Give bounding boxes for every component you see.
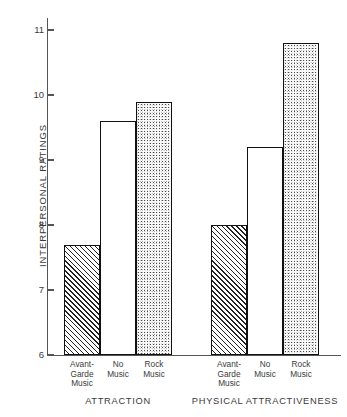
bar-chart-figure: INTERPERSONAL RATINGS 67891011 Avant- Ga… <box>0 0 347 417</box>
y-tick-label: 9 <box>24 154 44 165</box>
bar <box>211 225 247 355</box>
y-tick-mark <box>48 224 54 225</box>
bar <box>100 121 136 355</box>
y-tick-mark <box>48 289 54 290</box>
y-tick-label: 7 <box>24 284 44 295</box>
category-tick-label: Rock Music <box>132 360 176 379</box>
y-tick-mark <box>48 354 54 355</box>
bar <box>64 245 100 356</box>
bar <box>283 43 319 355</box>
y-tick-mark <box>48 159 54 160</box>
y-tick-label: 6 <box>24 349 44 360</box>
y-tick-mark <box>48 29 54 30</box>
y-tick-label: 11 <box>24 24 44 35</box>
y-tick-label: 8 <box>24 219 44 230</box>
y-tick-mark <box>48 94 54 95</box>
group-axis-label: PHYSICAL ATTRACTIVENESS <box>171 396 347 406</box>
category-tick-label: Rock Music <box>279 360 323 379</box>
x-axis-line <box>47 355 341 356</box>
y-axis-line <box>47 18 48 356</box>
bar <box>136 102 172 356</box>
y-tick-label: 10 <box>24 89 44 100</box>
y-axis-title: INTERPERSONAL RATINGS <box>37 71 48 321</box>
bar <box>247 147 283 355</box>
